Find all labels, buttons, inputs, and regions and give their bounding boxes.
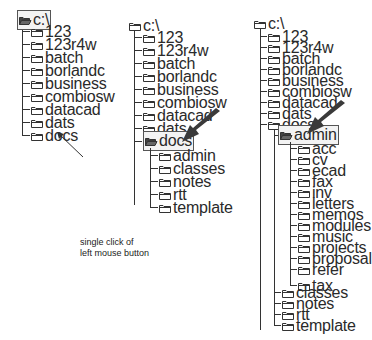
folder-icon <box>159 191 171 199</box>
folder-icon <box>282 300 294 308</box>
tree-node-root[interactable]: c:\ <box>129 20 159 31</box>
folder-icon <box>298 156 310 164</box>
folder-icon <box>31 80 43 88</box>
folder-icon <box>31 28 43 36</box>
folder-icon <box>143 34 155 42</box>
tree-trunk-line <box>134 30 135 205</box>
folder-open-icon <box>19 16 31 24</box>
folder-icon <box>129 22 141 30</box>
tree-node[interactable]: template <box>282 320 356 331</box>
folder-icon <box>268 33 280 41</box>
folder-icon <box>159 152 171 160</box>
pointer-arrow-bold-icon <box>180 108 222 144</box>
tree-trunk-line <box>22 24 23 136</box>
folder-icon <box>159 204 171 212</box>
folder-icon <box>298 255 310 263</box>
folder-icon <box>159 178 171 186</box>
folder-icon <box>268 55 280 63</box>
folder-icon <box>268 77 280 85</box>
folder-icon <box>143 60 155 68</box>
tree-panel-docs-expanded: c:\ 123 123r4w batch borlandc business c… <box>120 0 250 250</box>
folder-icon <box>31 132 43 140</box>
folder-icon <box>298 178 310 186</box>
folder-icon <box>31 41 43 49</box>
folder-icon <box>282 322 294 330</box>
folder-icon <box>298 244 310 252</box>
folder-icon <box>31 106 43 114</box>
folder-icon <box>254 20 266 28</box>
folder-icon <box>143 112 155 120</box>
pointer-arrow-bold-icon <box>305 100 347 136</box>
folder-icon <box>159 165 171 173</box>
folder-icon <box>298 266 310 274</box>
folder-icon <box>298 222 310 230</box>
folder-icon <box>298 211 310 219</box>
folder-icon <box>298 200 310 208</box>
folder-open-icon <box>145 137 157 145</box>
folder-icon <box>143 99 155 107</box>
folder-icon <box>31 67 43 75</box>
pointer-arrow-icon <box>55 130 85 160</box>
folder-icon <box>298 167 310 175</box>
tree-panel-collapsed: c:\ 123 123r4w batch borlandc business c… <box>0 0 110 180</box>
folder-icon <box>31 54 43 62</box>
tree-trunk-line <box>260 28 261 330</box>
folder-icon <box>282 311 294 319</box>
folder-open-icon <box>280 131 292 139</box>
folder-icon <box>268 44 280 52</box>
folder-icon <box>298 233 310 241</box>
tree-panel-admin-expanded: c:\ 123 123r4w batch borlandc business c… <box>250 0 366 340</box>
tree-node[interactable]: refer <box>298 264 344 275</box>
tree-node[interactable]: template <box>159 202 233 213</box>
folder-icon <box>143 86 155 94</box>
folder-icon <box>268 88 280 96</box>
folder-icon <box>31 93 43 101</box>
folder-icon <box>298 145 310 153</box>
tree-node-root[interactable]: c:\ <box>254 18 284 29</box>
folder-icon <box>282 289 294 297</box>
folder-icon <box>143 73 155 81</box>
folder-icon <box>31 119 43 127</box>
folder-icon <box>268 66 280 74</box>
folder-icon <box>298 189 310 197</box>
folder-icon <box>143 47 155 55</box>
folder-icon <box>268 99 280 107</box>
folder-icon <box>268 110 280 118</box>
